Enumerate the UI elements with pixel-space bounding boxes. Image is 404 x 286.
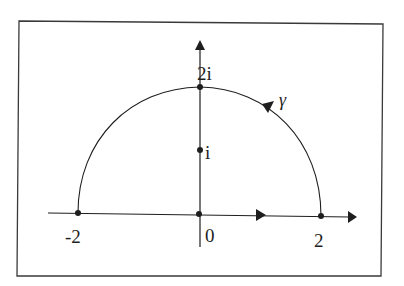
segment-direction-arrow-icon — [256, 209, 266, 221]
real-axis-arrow-icon — [348, 211, 357, 223]
point-two — [318, 213, 324, 219]
point-origin — [196, 211, 202, 217]
label-two-i: 2i — [197, 64, 212, 83]
label-gamma: γ — [279, 91, 286, 109]
point-i — [197, 147, 203, 153]
label-two: 2 — [314, 231, 324, 250]
label-minus-two: -2 — [65, 227, 81, 246]
label-i: i — [205, 143, 210, 162]
point-minus-two — [75, 210, 81, 216]
point-two-i — [197, 84, 203, 90]
imaginary-axis-arrow-icon — [195, 40, 205, 50]
diagram-canvas: 2i i γ -2 0 2 — [0, 0, 404, 286]
contour-diagram-svg — [0, 0, 404, 286]
label-zero: 0 — [205, 226, 215, 245]
